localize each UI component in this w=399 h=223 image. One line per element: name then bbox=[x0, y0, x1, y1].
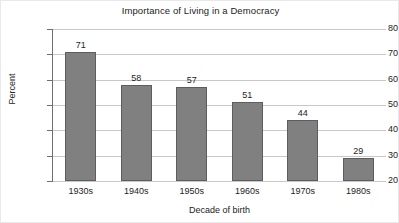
bar-value-label: 44 bbox=[273, 108, 333, 118]
bar-value-label: 57 bbox=[162, 75, 222, 85]
x-axis-title: Decade of birth bbox=[53, 205, 386, 215]
bar bbox=[287, 120, 318, 181]
bar-group: 29 bbox=[343, 29, 374, 181]
y-tick-mark bbox=[47, 105, 52, 106]
bar bbox=[176, 87, 207, 181]
gridline bbox=[53, 29, 386, 30]
bar-value-label: 58 bbox=[106, 73, 166, 83]
bar bbox=[343, 158, 374, 181]
gridline bbox=[53, 105, 386, 106]
y-tick-mark bbox=[47, 80, 52, 81]
bar-group: 44 bbox=[287, 29, 318, 181]
chart-figure: Importance of Living in a Democracy Perc… bbox=[0, 0, 399, 223]
y-tick-mark bbox=[47, 54, 52, 55]
y-tick-mark bbox=[47, 29, 52, 30]
gridline bbox=[53, 181, 386, 182]
gridline bbox=[53, 130, 386, 131]
bar-group: 71 bbox=[65, 29, 96, 181]
bar bbox=[65, 52, 96, 181]
gridline bbox=[53, 54, 386, 55]
y-tick-mark bbox=[47, 130, 52, 131]
y-tick-mark bbox=[47, 181, 52, 182]
bar-value-label: 29 bbox=[328, 146, 388, 156]
bar-value-label: 51 bbox=[217, 90, 277, 100]
y-axis-title: Percent bbox=[7, 59, 17, 119]
bar bbox=[121, 85, 152, 181]
y-tick-mark bbox=[47, 156, 52, 157]
chart-title: Importance of Living in a Democracy bbox=[1, 5, 399, 16]
bar-value-label: 71 bbox=[51, 40, 111, 50]
plot-area: 715857514429 bbox=[53, 29, 386, 181]
bar-group: 57 bbox=[176, 29, 207, 181]
bar-group: 51 bbox=[232, 29, 263, 181]
bar bbox=[232, 102, 263, 181]
x-tick-label: 1980s bbox=[323, 186, 393, 196]
bar-group: 58 bbox=[121, 29, 152, 181]
